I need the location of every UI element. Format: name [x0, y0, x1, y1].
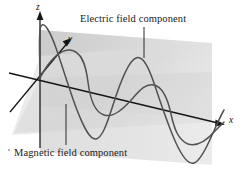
electric-field-label: Electric field component [80, 13, 186, 24]
axis-z-arrow [37, 11, 44, 20]
axis-x-label: x [229, 115, 233, 125]
axis-z-label: z [36, 2, 40, 12]
magnetic-field-label: Magnetic field component [14, 147, 127, 158]
axis-y-label: y [68, 34, 72, 44]
em-wave-figure: Electric field component Magnetic field … [0, 0, 244, 175]
